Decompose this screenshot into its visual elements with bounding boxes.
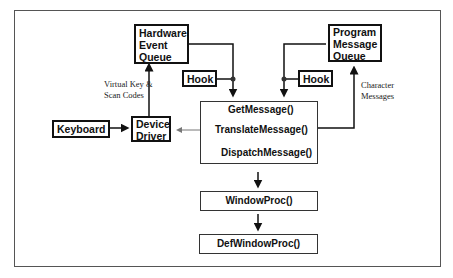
node-label: Hardware — [139, 27, 184, 39]
node-label: Driver — [136, 130, 166, 142]
hardware-event-queue-node: Hardware Event Queue — [134, 24, 189, 64]
label-line: Character — [361, 80, 394, 91]
dispatch-message-label: DispatchMessage() — [221, 147, 312, 158]
window-proc-node: WindowProc() — [200, 191, 318, 211]
virtual-key-label: Virtual Key & Scan Codes — [104, 79, 153, 101]
def-window-proc-node: DefWindowProc() — [199, 234, 318, 254]
node-label: Queue — [139, 51, 184, 63]
label-line: Virtual Key & — [104, 79, 153, 90]
node-label: Message — [333, 38, 377, 50]
node-label: Device — [136, 118, 166, 130]
get-message-label: GetMessage() — [228, 104, 294, 115]
character-messages-label: Character Messages — [361, 80, 394, 102]
hook-left-node: Hook — [182, 70, 217, 87]
program-message-queue-node: Program Message Queue — [328, 24, 382, 62]
label-line: Scan Codes — [104, 90, 153, 101]
translate-message-label: TranslateMessage() — [215, 124, 308, 135]
label-line: Messages — [361, 91, 394, 102]
node-label: Event — [139, 39, 184, 51]
hook-right-node: Hook — [298, 70, 333, 87]
node-label: Program — [333, 26, 377, 38]
device-driver-node: Device Driver — [131, 116, 171, 142]
keyboard-node: Keyboard — [52, 120, 110, 138]
node-label: Queue — [333, 50, 377, 62]
